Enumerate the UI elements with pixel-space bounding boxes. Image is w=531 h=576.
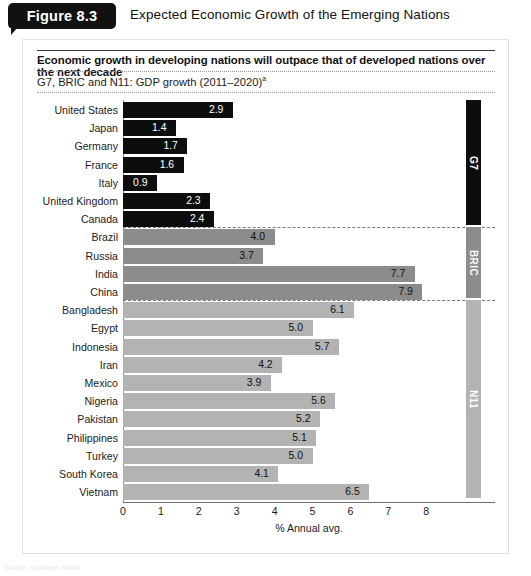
bar-value-label: 4.0 bbox=[251, 230, 265, 244]
bar bbox=[123, 430, 316, 446]
bar-category-label: Bangladesh bbox=[62, 304, 118, 316]
bar bbox=[123, 320, 313, 336]
group-separator bbox=[123, 300, 495, 301]
bar-category-label: Italy bbox=[99, 177, 118, 189]
bar-category-label: South Korea bbox=[59, 468, 118, 480]
bar-value-label: 5.0 bbox=[289, 449, 303, 463]
bar-category-label: Turkey bbox=[86, 450, 118, 462]
group-separator bbox=[123, 227, 495, 228]
bar-row: United States2.9 bbox=[23, 102, 510, 120]
bar-row: Philippines5.1 bbox=[23, 430, 510, 448]
x-axis-title: % Annual avg. bbox=[123, 522, 495, 534]
bar bbox=[123, 266, 415, 282]
bar-row: Italy0.9 bbox=[23, 175, 510, 193]
bar-value-label: 4.2 bbox=[258, 358, 272, 372]
plot-area: United States2.9Japan1.4Germany1.7France… bbox=[23, 40, 510, 555]
bar-row: Brazil4.0 bbox=[23, 229, 510, 247]
bar-row: Egypt5.0 bbox=[23, 320, 510, 338]
bar-value-label: 2.9 bbox=[209, 103, 223, 117]
bar bbox=[123, 411, 320, 427]
figure-header: Figure 8.3 Expected Economic Growth of t… bbox=[0, 0, 531, 36]
x-tick-label: 1 bbox=[151, 505, 171, 517]
bar-category-label: Japan bbox=[89, 122, 118, 134]
bar-value-label: 1.7 bbox=[163, 139, 177, 153]
x-tick-label: 5 bbox=[303, 505, 323, 517]
bar-value-label: 5.0 bbox=[289, 321, 303, 335]
group-legend-label: G7 bbox=[468, 156, 479, 170]
group-legend-bar-n11: N11 bbox=[466, 300, 481, 498]
bar bbox=[123, 120, 176, 136]
bar-row: India7.7 bbox=[23, 266, 510, 284]
bar-category-label: United Kingdom bbox=[43, 195, 118, 207]
bar-row: Indonesia5.7 bbox=[23, 339, 510, 357]
bar-category-label: Philippines bbox=[67, 432, 118, 444]
x-tick-label: 8 bbox=[416, 505, 436, 517]
bar-row: Pakistan5.2 bbox=[23, 411, 510, 429]
group-legend-label: BRIC bbox=[468, 250, 479, 276]
bar bbox=[123, 284, 422, 300]
bar-category-label: United States bbox=[54, 104, 118, 116]
source-note: Source: Goldman Sachs bbox=[4, 564, 80, 571]
bar bbox=[123, 393, 335, 409]
x-tick-label: 6 bbox=[340, 505, 360, 517]
bar-value-label: 2.3 bbox=[186, 194, 200, 208]
bar-category-label: Canada bbox=[81, 213, 118, 225]
bar-category-label: China bbox=[90, 286, 118, 298]
bar-row: Nigeria5.6 bbox=[23, 393, 510, 411]
bar-row: South Korea4.1 bbox=[23, 466, 510, 484]
bar-row: Bangladesh6.1 bbox=[23, 302, 510, 320]
bar-value-label: 7.7 bbox=[391, 267, 405, 281]
bar-row: Iran4.2 bbox=[23, 357, 510, 375]
bar-row: Germany1.7 bbox=[23, 138, 510, 156]
bar bbox=[123, 302, 354, 318]
bar-category-label: Germany bbox=[74, 140, 118, 152]
bar-category-label: Mexico bbox=[84, 377, 118, 389]
bar-category-label: France bbox=[85, 159, 118, 171]
bar-category-label: Vietnam bbox=[79, 486, 118, 498]
bar-category-label: Brazil bbox=[92, 231, 119, 243]
bar-category-label: Iran bbox=[100, 359, 118, 371]
bar-category-label: Russia bbox=[86, 250, 118, 262]
bar-category-label: Pakistan bbox=[77, 413, 118, 425]
bar-row: France1.6 bbox=[23, 157, 510, 175]
bar bbox=[123, 157, 184, 173]
bar-value-label: 5.6 bbox=[311, 394, 325, 408]
x-tick-label: 7 bbox=[378, 505, 398, 517]
bar-value-label: 3.7 bbox=[239, 249, 253, 263]
bar bbox=[123, 448, 313, 464]
x-tick-label: 4 bbox=[265, 505, 285, 517]
chart-panel: Economic growth in developing nations wi… bbox=[22, 39, 509, 554]
bar-value-label: 1.4 bbox=[152, 121, 166, 135]
bar-value-label: 5.1 bbox=[292, 431, 306, 445]
bar-value-label: 7.9 bbox=[398, 285, 412, 299]
bar-row: Russia3.7 bbox=[23, 248, 510, 266]
bar-value-label: 2.4 bbox=[190, 212, 204, 226]
bar-row: United Kingdom2.3 bbox=[23, 193, 510, 211]
bar-value-label: 1.6 bbox=[160, 158, 174, 172]
group-legend-bar-g7: G7 bbox=[466, 100, 481, 225]
bar-value-label: 5.2 bbox=[296, 412, 310, 426]
bar-category-label: India bbox=[95, 268, 118, 280]
bar bbox=[123, 339, 339, 355]
x-tick-label: 2 bbox=[189, 505, 209, 517]
bar-value-label: 3.9 bbox=[247, 376, 261, 390]
x-tick-label: 3 bbox=[227, 505, 247, 517]
bar-value-label: 4.1 bbox=[254, 467, 268, 481]
bar-row: Mexico3.9 bbox=[23, 375, 510, 393]
bar-category-label: Egypt bbox=[91, 322, 118, 334]
bar-value-label: 5.7 bbox=[315, 340, 329, 354]
badge-tail-shape bbox=[11, 27, 18, 35]
bar-value-label: 6.1 bbox=[330, 303, 344, 317]
x-tick-label: 0 bbox=[113, 505, 133, 517]
bar-category-label: Nigeria bbox=[84, 395, 118, 407]
bar-row: Japan1.4 bbox=[23, 120, 510, 138]
bar-value-label: 6.5 bbox=[345, 485, 359, 499]
group-legend-bar-bric: BRIC bbox=[466, 227, 481, 298]
bar bbox=[123, 484, 369, 500]
figure-title: Expected Economic Growth of the Emerging… bbox=[130, 7, 450, 22]
bar-category-label: Indonesia bbox=[72, 341, 118, 353]
bar-row: Vietnam6.5 bbox=[23, 484, 510, 502]
figure-number-label: Figure 8.3 bbox=[27, 8, 98, 24]
bar-value-label: 0.9 bbox=[133, 176, 147, 190]
x-axis-line bbox=[123, 502, 495, 503]
